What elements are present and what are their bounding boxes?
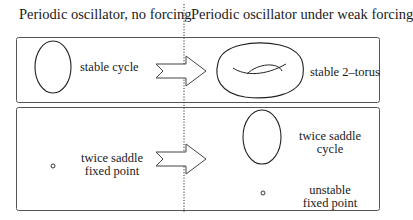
arrow-bottom-icon [156,144,206,174]
saddle-fixed-point-icon [51,164,55,168]
label-unstable-fixed-point: unstable fixed point [298,184,362,210]
label-stable-cycle: stable cycle [80,61,139,74]
label-twice-saddle-fixed-point: twice saddle fixed point [80,152,144,178]
label-line: fixed point [80,165,144,178]
saddle-cycle-ellipse-icon [243,110,281,164]
label-line: cycle [298,143,362,156]
label-twice-saddle-cycle: twice saddle cycle [298,130,362,156]
torus-inner-lower [233,64,286,74]
header-weak-forcing: Periodic oscillator under weak forcing [191,6,413,23]
torus-icon [217,43,304,98]
label-stable-torus: stable 2–torus [310,66,380,79]
unstable-fixed-point-icon [261,191,265,195]
header-no-forcing: Periodic oscillator, no forcing [19,6,192,23]
label-line: fixed point [298,197,362,210]
stable-cycle-ellipse-icon [35,41,71,93]
arrow-top-icon [156,56,206,86]
